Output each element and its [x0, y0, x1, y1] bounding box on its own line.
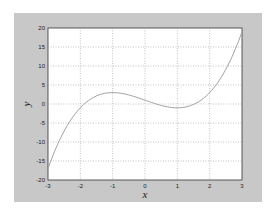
chart: -3-2-10123-20-15-10-505101520xy	[0, 0, 275, 217]
y-tick-label: 20	[38, 25, 45, 31]
y-tick-label: 5	[42, 82, 46, 88]
y-tick-label: 0	[42, 101, 46, 107]
y-axis-label: y	[20, 101, 32, 107]
x-tick-label: -2	[78, 183, 84, 189]
x-axis-label: x	[142, 188, 148, 200]
y-tick-label: 10	[38, 63, 45, 69]
y-tick-label: -20	[36, 177, 45, 183]
y-tick-label: -10	[36, 139, 45, 145]
y-tick-label: -5	[40, 120, 46, 126]
x-tick-label: 3	[240, 183, 244, 189]
x-tick-label: -3	[45, 183, 51, 189]
x-tick-label: 1	[176, 183, 180, 189]
x-tick-label: 2	[208, 183, 212, 189]
y-tick-label: -15	[36, 158, 45, 164]
x-tick-label: -1	[110, 183, 116, 189]
y-tick-label: 15	[38, 44, 45, 50]
